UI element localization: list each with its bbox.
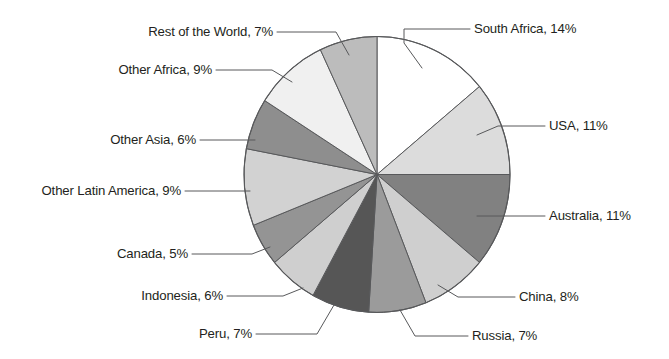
pie-label-australia: Australia, 11% — [549, 208, 631, 223]
pie-label-russia: Russia, 7% — [472, 328, 538, 343]
pie-label-china: China, 8% — [519, 289, 579, 304]
pie-label-other-asia: Other Asia, 6% — [110, 132, 196, 147]
pie-label-rest-of-the-world: Rest of the World, 7% — [148, 24, 273, 39]
pie-label-south-africa: South Africa, 14% — [474, 21, 577, 36]
pie-label-other-africa: Other Africa, 9% — [118, 62, 212, 77]
leader-line-indonesia — [227, 288, 303, 296]
leader-line-canada — [192, 247, 270, 254]
leader-line-russia — [400, 310, 468, 336]
pie-chart-figure: South Africa, 14% USA, 11% Australia, 11… — [0, 0, 669, 359]
pie-slices-group — [244, 37, 510, 313]
pie-label-canada: Canada, 5% — [117, 246, 189, 261]
leader-line-peru — [256, 305, 334, 334]
pie-label-peru: Peru, 7% — [199, 326, 252, 341]
pie-label-other-latin-america: Other Latin America, 9% — [42, 183, 182, 198]
pie-label-indonesia: Indonesia, 6% — [141, 288, 223, 303]
pie-label-usa: USA, 11% — [549, 118, 608, 133]
